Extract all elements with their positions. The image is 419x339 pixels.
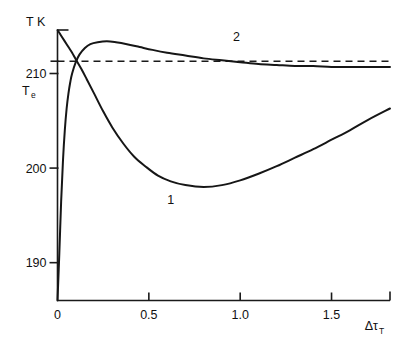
x-axis-title: Δτ — [365, 319, 378, 333]
y-tick-label-190: 190 — [26, 256, 47, 270]
x-tick-label-1.5: 1.5 — [323, 308, 340, 322]
x-axis-title-subscript: T — [379, 326, 384, 336]
y-axis-title: T K — [26, 15, 46, 29]
curve-2-path — [58, 41, 391, 300]
y-tick-label-210: 210 — [26, 67, 47, 81]
Te-label-subscript: e — [31, 90, 36, 100]
y-tick-label-200: 200 — [26, 162, 47, 176]
curve-1-path — [58, 30, 391, 187]
x-tick-label-0.5: 0.5 — [140, 308, 157, 322]
x-axis-ticks — [149, 292, 390, 301]
chart-container: 210200190 00.51.01.5 T K Δτ T T e 1 2 — [0, 0, 419, 339]
Te-label-group: T e — [22, 84, 36, 100]
y-axis-ticks — [50, 30, 69, 263]
axes-group — [58, 30, 391, 301]
x-axis-tick-labels: 00.51.01.5 — [54, 308, 340, 322]
x-axis-title-group: Δτ T — [365, 319, 385, 336]
line-chart: 210200190 00.51.01.5 T K Δτ T T e 1 2 — [0, 0, 419, 339]
curve-2-label: 2 — [233, 30, 240, 44]
curve-1-label: 1 — [167, 193, 174, 207]
x-tick-label-1.0: 1.0 — [231, 308, 248, 322]
Te-label: T — [22, 84, 30, 98]
x-tick-label-0: 0 — [54, 308, 61, 322]
